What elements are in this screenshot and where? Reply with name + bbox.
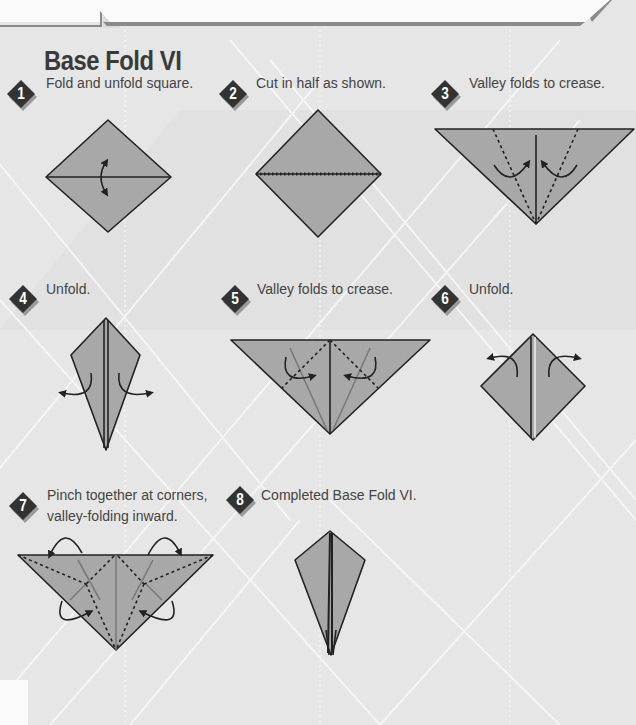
fold-diagrams [0,0,636,725]
step-6-diagram [481,334,585,440]
step-1-diagram [46,120,171,232]
step-7-diagram [18,538,213,650]
step-2-diagram [256,110,381,237]
step-5-diagram [231,340,430,434]
step-4-diagram [62,318,150,450]
step-3-diagram [435,129,634,224]
step-8-diagram [295,531,365,655]
